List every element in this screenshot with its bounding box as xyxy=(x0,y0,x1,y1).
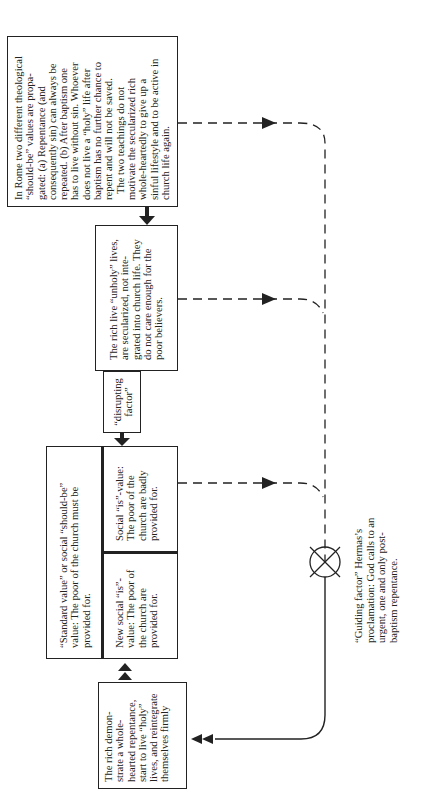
social-is-line: church are badly xyxy=(137,451,148,541)
new-social-line: New social “is”- xyxy=(114,558,125,648)
rich-unholy-line: The rich live “unholy” lives, xyxy=(108,232,119,360)
theological-line: sinful lifestyle and to be active in xyxy=(149,43,160,200)
double-up-arrow-icon xyxy=(118,663,132,680)
theological-line: whole-heartedly to give up a xyxy=(137,43,148,200)
new-social-line: value: The poor of xyxy=(125,558,136,648)
repentance-line: lives, and reintegrate xyxy=(148,687,159,782)
theological-line: “should-be” values are propa- xyxy=(24,43,35,200)
standard-value-line: value: The poor of the church must be xyxy=(69,453,80,648)
theological-line: church life again. xyxy=(160,43,171,200)
standard-value-line: provided for. xyxy=(81,453,92,648)
theological-line: The two teachings do not xyxy=(115,43,126,200)
new-social-line: provided for. xyxy=(148,558,159,648)
theological-line: has to live without sin. Whoever xyxy=(69,43,80,200)
repentance-line: The rich demon- xyxy=(103,687,114,782)
rich-unholy-box: The rich live “unholy” lives, are secula… xyxy=(95,225,178,371)
rich-unholy-line: do not care enough for the xyxy=(142,232,153,360)
theological-line: gated: (a) Repentance (and xyxy=(36,43,47,200)
repentance-line: strate a whole- xyxy=(114,687,125,782)
new-social-is-value-cell: New social “is”- value: The poor of the … xyxy=(104,554,177,658)
values-comparison-box: “Standard value” or social “should-be” v… xyxy=(46,446,178,659)
guiding-factor-caption: “Guiding factor” Hermas’s proclamation: … xyxy=(353,483,403,643)
standard-value-line: “Standard value” or social “should-be” xyxy=(58,453,69,648)
guiding-line: proclamation: God calls to an xyxy=(365,483,377,643)
theological-line: baptism has no further chance to xyxy=(92,43,103,200)
theological-line: repent and will not be saved. xyxy=(103,43,114,200)
theological-line: repeated. (b) After baptism one xyxy=(58,43,69,200)
social-is-line: Social “is”-value: xyxy=(114,451,125,541)
rich-unholy-line: poor believers. xyxy=(153,232,164,360)
solid-return-path xyxy=(215,577,325,739)
disrupting-line: factor” xyxy=(123,374,134,430)
standard-value-cell: “Standard value” or social “should-be” v… xyxy=(47,447,102,658)
guiding-line: baptism repentance. xyxy=(388,483,400,643)
rich-repentance-box: The rich demon- strate a whole- hearted … xyxy=(98,682,187,789)
theological-line: consequently sin) can always be xyxy=(47,43,58,200)
theological-line: In Rome two different theological xyxy=(13,43,24,200)
new-social-line: the church are xyxy=(137,558,148,648)
repentance-line: start to live “holy” xyxy=(137,687,148,782)
cell-divider xyxy=(102,552,177,555)
social-is-value-cell: Social “is”-value: The poor of the churc… xyxy=(104,447,177,551)
feedback-loop-diagram: In Rome two different theological “shoul… xyxy=(0,0,424,793)
dashed-feedback-paths xyxy=(178,123,325,562)
theological-values-box: In Rome two different theological “shoul… xyxy=(7,36,178,207)
theological-line: motivate the secularized rich xyxy=(126,43,137,200)
comparator-circle-x-icon xyxy=(310,547,340,577)
double-arrow-icon xyxy=(191,734,213,744)
social-is-line: The poor of the xyxy=(125,451,136,541)
disrupting-line: “disrupting xyxy=(112,374,123,430)
disrupting-factor-box: “disrupting factor” xyxy=(103,371,141,433)
repentance-line: themselves firmly xyxy=(159,687,170,782)
guiding-line: “Guiding factor” Hermas’s xyxy=(353,483,365,643)
theological-line: does not live a “holy” life after xyxy=(81,43,92,200)
social-is-line: provided for. xyxy=(148,451,159,541)
rich-unholy-line: grated into church life. They xyxy=(131,232,142,360)
repentance-line: hearted repentance, xyxy=(126,687,137,782)
arrow-right-icon xyxy=(262,117,276,489)
rich-unholy-line: are secularized, not inte- xyxy=(119,232,130,360)
guiding-line: urgent, one and only post- xyxy=(376,483,388,643)
